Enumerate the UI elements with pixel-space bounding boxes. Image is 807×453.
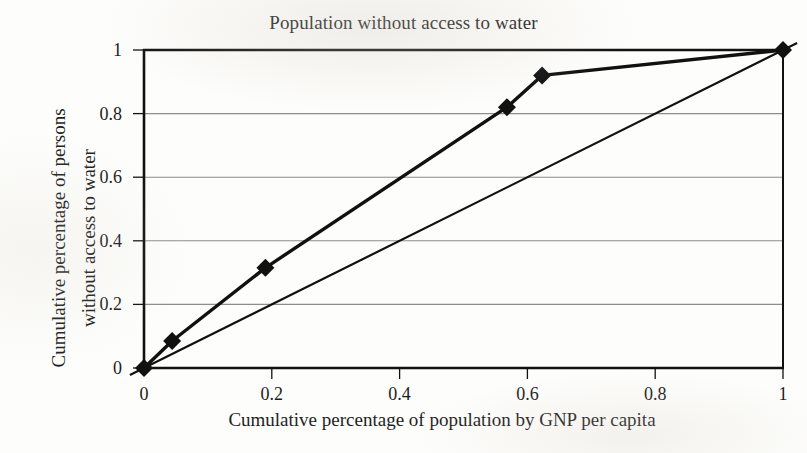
x-tick-marks bbox=[272, 368, 783, 379]
y-tick-marks bbox=[133, 50, 144, 368]
x-tick-label-0.6: 0.6 bbox=[516, 384, 539, 405]
data-point-marker bbox=[774, 41, 792, 59]
x-axis-title: Cumulative percentage of population by G… bbox=[92, 409, 792, 431]
x-tick-label-0.8: 0.8 bbox=[644, 384, 667, 405]
y-tick-label-1: 1 bbox=[92, 40, 122, 61]
x-tick-label-1: 1 bbox=[779, 384, 788, 405]
x-tick-label-0.4: 0.4 bbox=[388, 384, 411, 405]
y-axis-title-line-2: without access to water bbox=[74, 68, 104, 408]
equality-line bbox=[130, 43, 797, 375]
x-tick-label-0.2: 0.2 bbox=[261, 384, 284, 405]
chart-page: Population without access to water bbox=[0, 0, 807, 453]
y-axis-title: Cumulative percentage of persons without… bbox=[44, 68, 104, 408]
x-tick-label-0: 0 bbox=[140, 384, 149, 405]
y-axis-title-line-1: Cumulative percentage of persons bbox=[44, 68, 74, 408]
